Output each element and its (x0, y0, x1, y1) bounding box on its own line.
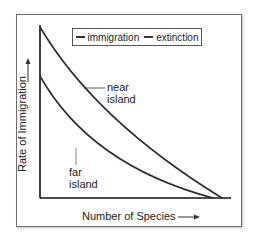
legend: immigration extinction (72, 28, 202, 46)
far-island-label-1: far (69, 166, 82, 178)
legend-swatch-immigration (76, 36, 85, 38)
legend-item-extinction: extinction (144, 32, 198, 43)
far-island-label-2: island (69, 178, 98, 190)
near-island-curve (40, 27, 222, 198)
legend-label-immigration: immigration (88, 32, 140, 43)
x-axis-label: Number of Species (82, 210, 176, 222)
y-axis-label: Rate of Immigration (16, 64, 28, 184)
legend-swatch-extinction (144, 36, 153, 38)
x-arrowhead-icon (194, 215, 200, 220)
legend-label-extinction: extinction (156, 32, 198, 43)
legend-item-immigration: immigration (76, 32, 140, 43)
near-island-label-1: near (107, 81, 129, 93)
near-island-label-2: island (107, 93, 136, 105)
